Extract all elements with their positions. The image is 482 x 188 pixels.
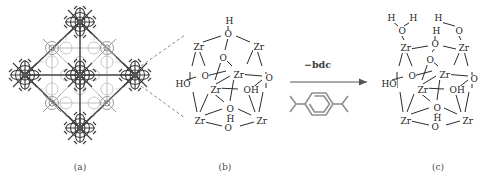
bdc-linker-structure: [290, 93, 348, 115]
atom-label: O: [224, 124, 232, 133]
mof-lattice-panel-a: [9, 6, 151, 144]
atom-label: O: [224, 30, 232, 39]
atom-label: O: [455, 27, 463, 36]
atom-label: O: [265, 74, 273, 83]
atom-label: Zr: [210, 86, 222, 95]
atom-label: Zr: [194, 117, 206, 126]
atom-label: Zr: [253, 43, 265, 52]
figure-canvas: [0, 0, 482, 188]
panel-caption-b: (b): [205, 162, 245, 172]
atom-label: O: [431, 123, 439, 132]
zr6-node-left: [9, 59, 41, 91]
zr6-node-right: [119, 59, 151, 91]
atom-label: O: [433, 104, 441, 113]
zr6-node-center: [64, 59, 96, 91]
atom-label: Zr: [233, 71, 245, 80]
reaction-arrow-head: [359, 79, 367, 86]
atom-label: O: [408, 72, 416, 81]
atom-label: Zr: [400, 44, 412, 53]
zr6-node-top: [64, 6, 96, 38]
atom-label: H: [434, 14, 443, 23]
panel-caption-a: (a): [60, 162, 100, 172]
zoom-connector-lines: [141, 35, 185, 118]
atom-label: O: [398, 27, 406, 36]
atom-label: O: [201, 72, 209, 81]
atom-label: H: [409, 14, 418, 23]
atom-label: HO: [381, 80, 397, 89]
atom-label: O: [426, 56, 434, 65]
reaction-scheme: [290, 79, 367, 116]
atom-label: Zr: [462, 117, 474, 126]
atom-label: O: [470, 75, 478, 84]
atom-label: Zr: [458, 44, 470, 53]
atom-label: Zr: [417, 86, 429, 95]
zr6-cluster-panel-c: [392, 21, 472, 125]
atom-label: H: [387, 14, 396, 23]
atom-label: Zr: [256, 117, 268, 126]
atom-label: OH: [243, 86, 259, 95]
atom-label: OH: [449, 86, 465, 95]
atom-label: H: [225, 17, 234, 26]
atom-label: Zr: [400, 117, 412, 126]
panel-caption-c: (c): [418, 162, 458, 172]
zr6-node-bottom: [64, 112, 96, 144]
reaction-label: −bdc: [304, 59, 331, 70]
atom-label: Zr: [193, 43, 205, 52]
atom-label: O: [226, 105, 234, 114]
atom-label: H: [432, 27, 441, 36]
zr6-node-group: [9, 6, 151, 144]
atom-label: HO: [175, 80, 191, 89]
atom-label: Zr: [439, 71, 451, 80]
atom-label: O: [219, 54, 227, 63]
atom-label: O: [431, 40, 439, 49]
